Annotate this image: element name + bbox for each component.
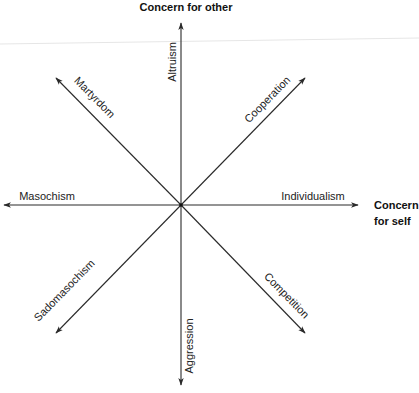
martyrdom-arrow-icon bbox=[56, 78, 181, 205]
masochism-label: Masochism bbox=[19, 190, 75, 202]
axis-cooperation: Cooperation bbox=[181, 74, 305, 205]
axis-masochism: Masochism bbox=[4, 190, 181, 205]
axis-altruism: Altruism bbox=[166, 23, 181, 205]
axis-sadomasochism: Sadomasochism bbox=[31, 205, 181, 333]
center-point bbox=[179, 203, 183, 207]
competition-label: Competition bbox=[262, 270, 311, 321]
martyrdom-label: Martyrdom bbox=[72, 74, 117, 120]
scan-artifact-line bbox=[0, 38, 419, 44]
axis-individualism: Individualism bbox=[181, 190, 358, 205]
cooperation-arrow-icon bbox=[181, 78, 305, 205]
axis-martyrdom: Martyrdom bbox=[56, 74, 181, 205]
aggression-label: Aggression bbox=[183, 318, 195, 373]
axis-competition: Competition bbox=[181, 205, 312, 333]
individualism-label: Individualism bbox=[281, 190, 345, 202]
sadomasochism-label: Sadomasochism bbox=[31, 257, 96, 324]
social-orientation-diagram: Concern for other Concern for self Altru… bbox=[0, 0, 419, 393]
sadomasochism-arrow-icon bbox=[56, 205, 181, 333]
altruism-label: Altruism bbox=[166, 42, 178, 82]
vertical-axis-title: Concern for other bbox=[140, 1, 234, 13]
competition-arrow-icon bbox=[181, 205, 305, 333]
horizontal-axis-title-line2: for self bbox=[374, 215, 411, 227]
axis-aggression: Aggression bbox=[181, 205, 195, 385]
horizontal-axis-title-line1: Concern bbox=[374, 199, 419, 211]
